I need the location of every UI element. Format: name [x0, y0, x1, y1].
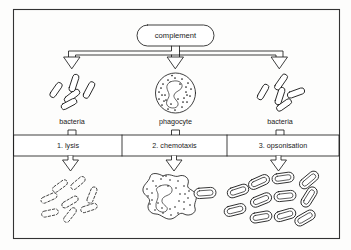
target-label-left: bacteria: [59, 117, 85, 126]
arrow-head-center: [168, 57, 184, 69]
bacteria-cluster-left: [49, 73, 96, 110]
process-label-opsonisation: 3. opsonisation: [259, 141, 307, 150]
phagocyte-cell-top: [156, 73, 196, 113]
coated-bacteria-icon: [223, 169, 321, 228]
arrow-head-left: [64, 57, 80, 69]
process-label-lysis: 1. lysis: [57, 141, 79, 150]
branching-arrow-top: [64, 46, 288, 68]
arrow-head-right: [272, 57, 288, 69]
target-label-right: bacteria: [267, 117, 293, 126]
bacteria-cluster-right: [256, 73, 305, 112]
lysed-bacteria-icon: [40, 175, 98, 223]
amoeboid-phagocyte-icon: [143, 174, 216, 220]
complement-diagram: complement bacteria: [0, 0, 351, 250]
connector-tabs-top: [68, 130, 284, 135]
down-arrows-row: [63, 156, 287, 171]
engulfed-bacterium: [194, 187, 217, 199]
complement-label: complement: [155, 31, 197, 40]
process-label-chemotaxis: 2. chemotaxis: [152, 141, 197, 150]
target-label-center: phagocyte: [159, 117, 192, 126]
